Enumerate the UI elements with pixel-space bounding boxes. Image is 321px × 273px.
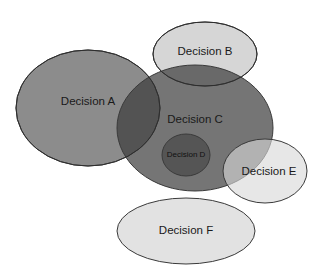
- decision-e-label: Decision E: [242, 165, 297, 177]
- decision-venn-diagram: Decision A Decision B Decision C Decisio…: [0, 0, 321, 273]
- decision-c-label: Decision C: [167, 113, 223, 125]
- decision-d-label: Decision D: [167, 150, 206, 159]
- decision-a-label: Decision A: [61, 95, 116, 107]
- decision-b-label: Decision B: [178, 45, 233, 57]
- decision-f-label: Decision F: [159, 224, 213, 236]
